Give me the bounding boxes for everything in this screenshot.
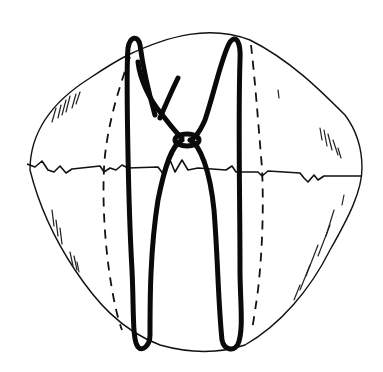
knotted-loop-right-strand [190, 39, 241, 349]
right-dashed-meridian [251, 45, 263, 330]
shading-hatches-lower-right [294, 195, 344, 300]
knot-tail-right [160, 78, 178, 118]
sphere-outline [30, 33, 362, 352]
equator-line [27, 160, 362, 182]
sphere-knot-diagram [0, 0, 383, 372]
diagram-canvas [0, 0, 383, 372]
shading-hatches-upper-right [278, 90, 341, 158]
shading-hatches-lower-left [52, 210, 79, 272]
